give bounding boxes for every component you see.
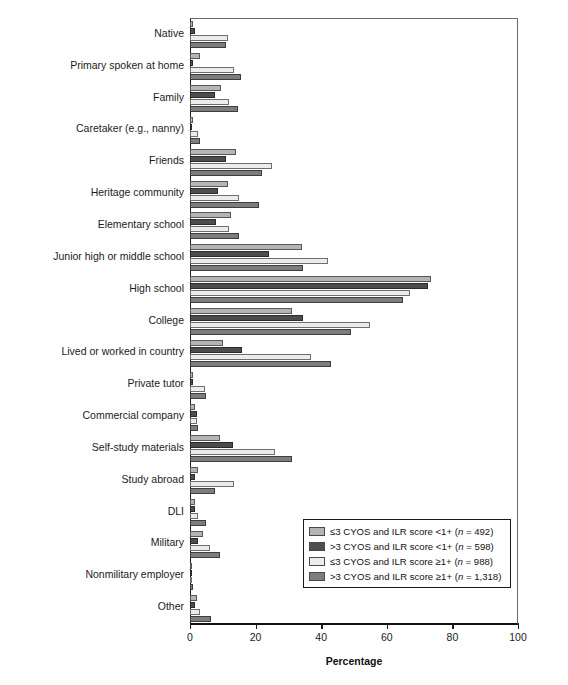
bar (190, 212, 231, 218)
bar (190, 602, 195, 608)
bar (190, 131, 198, 137)
y-axis-label: Commercial company (0, 410, 184, 421)
bar (190, 322, 370, 328)
bar (190, 233, 239, 239)
bar (190, 181, 228, 187)
bar (190, 308, 292, 314)
bar (190, 67, 234, 73)
bar (190, 435, 220, 441)
bar (190, 149, 236, 155)
bar (190, 219, 216, 225)
bar (190, 35, 228, 41)
bar (190, 449, 275, 455)
bar (190, 386, 205, 392)
bar-group (190, 244, 518, 271)
legend-item: ≤3 CYOS and ILR score <1+ (n = 492) (309, 524, 505, 539)
y-axis-label: Family (0, 92, 184, 103)
bar (190, 595, 197, 601)
bar (190, 315, 303, 321)
x-axis-tick-label: 20 (250, 631, 262, 643)
legend-swatch (309, 557, 325, 566)
legend-label: ≤3 CYOS and ILR score <1+ (n = 492) (330, 526, 493, 537)
bar (190, 265, 303, 271)
legend-item: >3 CYOS and ILR score ≥1+ (n = 1,318) (309, 569, 505, 584)
bar-group (190, 372, 518, 399)
x-axis-tick (387, 623, 388, 629)
bar (190, 117, 193, 123)
bar (190, 552, 220, 558)
bar (190, 481, 234, 487)
y-axis-label: Elementary school (0, 219, 184, 230)
bar (190, 513, 198, 519)
bar (190, 474, 195, 480)
x-axis-tick (321, 623, 322, 629)
bar (190, 329, 351, 335)
x-axis-tick-label: 100 (509, 631, 527, 643)
y-axis-label: Lived or worked in country (0, 346, 184, 357)
bar (190, 584, 193, 590)
bar (190, 283, 428, 289)
x-axis-tick (190, 623, 191, 629)
bar-group (190, 308, 518, 335)
bar (190, 404, 195, 410)
bar-group (190, 149, 518, 176)
bar (190, 411, 197, 417)
bar-group (190, 340, 518, 367)
bar-group (190, 404, 518, 431)
bar-group (190, 181, 518, 208)
bar (190, 99, 229, 105)
chart-legend: ≤3 CYOS and ILR score <1+ (n = 492)>3 CY… (303, 519, 511, 588)
bar (190, 138, 200, 144)
y-axis-label: Junior high or middle school (0, 251, 184, 262)
bar (190, 124, 192, 130)
bar (190, 563, 192, 569)
bar (190, 609, 200, 615)
bar (190, 520, 206, 526)
bar (190, 74, 241, 80)
bar (190, 163, 272, 169)
bar (190, 488, 215, 494)
legend-swatch (309, 572, 325, 581)
y-axis-label: Heritage community (0, 187, 184, 198)
bar-group (190, 276, 518, 303)
bar (190, 195, 239, 201)
legend-item: ≤3 CYOS and ILR score ≥1+ (n = 988) (309, 554, 505, 569)
bar (190, 545, 210, 551)
bar-group (190, 435, 518, 462)
x-axis-tick (452, 623, 453, 629)
bar (190, 467, 198, 473)
y-axis-label: College (0, 315, 184, 326)
bar (190, 361, 331, 367)
bar (190, 53, 200, 59)
bar (190, 202, 259, 208)
bar (190, 379, 193, 385)
bar (190, 354, 311, 360)
bar (190, 442, 233, 448)
bar (190, 226, 229, 232)
bar-group (190, 595, 518, 622)
bar (190, 60, 193, 66)
bar (190, 21, 193, 27)
legend-item: >3 CYOS and ILR score <1+ (n = 598) (309, 539, 505, 554)
y-axis-label: Private tutor (0, 378, 184, 389)
bar (190, 244, 302, 250)
y-axis-label: Military (0, 537, 184, 548)
bar (190, 258, 328, 264)
y-axis-label: Other (0, 601, 184, 612)
y-axis-label: Self-study materials (0, 442, 184, 453)
bar (190, 577, 192, 583)
bar (190, 251, 269, 257)
bar (190, 425, 198, 431)
bar-chart: NativePrimary spoken at homeFamilyCareta… (0, 0, 568, 685)
legend-n-symbol: n (458, 541, 463, 552)
legend-n-symbol: n (458, 571, 463, 582)
legend-label: >3 CYOS and ILR score ≥1+ (n = 1,318) (330, 571, 501, 582)
legend-n-symbol: n (458, 556, 463, 567)
y-axis-label: Caretaker (e.g., nanny) (0, 123, 184, 134)
bar (190, 276, 431, 282)
bar (190, 85, 221, 91)
x-axis-title: Percentage (190, 655, 518, 667)
y-axis-label: Study abroad (0, 474, 184, 485)
bar (190, 538, 198, 544)
bar (190, 393, 206, 399)
